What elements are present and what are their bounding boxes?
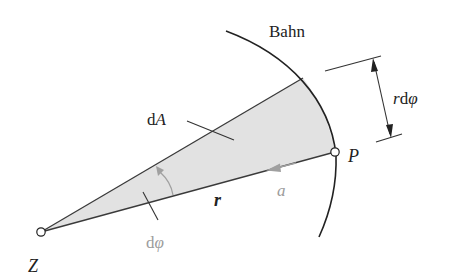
label-r-dphi-phi: φ — [408, 89, 417, 108]
dimension-line — [374, 62, 390, 134]
label-dA-A: A — [155, 110, 167, 129]
dimension-arrowhead-top-icon — [371, 58, 378, 72]
sector-diagram: Bahn dA rdφ r a dφ Z P — [0, 0, 453, 279]
label-center-Z: Z — [28, 256, 39, 276]
center-point-Z — [37, 228, 45, 236]
label-dphi-phi: φ — [155, 233, 164, 252]
dimension-extension-bottom — [376, 134, 402, 142]
label-acceleration-a: a — [277, 181, 286, 200]
label-r-dphi: rdφ — [393, 89, 418, 108]
label-dphi: dφ — [146, 233, 164, 252]
label-bahn: Bahn — [269, 22, 305, 41]
label-dA: dA — [147, 110, 167, 129]
area-sector-dA — [41, 78, 335, 232]
label-point-P: P — [347, 146, 359, 166]
mass-point-P — [331, 148, 339, 156]
diagram-canvas: Bahn dA rdφ r a dφ Z P — [0, 0, 453, 279]
label-radius-r: r — [214, 190, 222, 210]
dimension-arrowhead-bottom-icon — [386, 124, 393, 138]
